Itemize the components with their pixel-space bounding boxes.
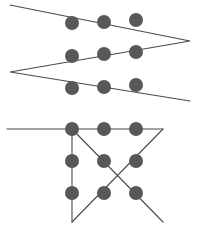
bottom-dot-grid: [65, 122, 143, 200]
dot: [129, 13, 143, 27]
nine-dots-puzzle-figure: [0, 0, 200, 231]
dot: [65, 186, 79, 200]
dot: [65, 16, 79, 30]
dot: [65, 122, 79, 136]
dot: [129, 78, 143, 92]
dot: [65, 49, 79, 63]
dot: [129, 45, 143, 59]
dot: [129, 122, 143, 136]
dot: [129, 186, 143, 200]
dot: [97, 15, 111, 29]
dot: [65, 154, 79, 168]
dot: [97, 122, 111, 136]
dot: [97, 186, 111, 200]
dot: [97, 154, 111, 168]
dot: [97, 80, 111, 94]
dot: [65, 81, 79, 95]
dot: [97, 47, 111, 61]
dot: [129, 154, 143, 168]
